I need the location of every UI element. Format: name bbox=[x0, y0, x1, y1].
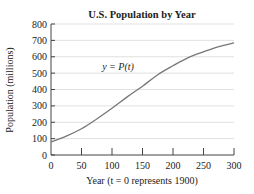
x-tick-label: 200 bbox=[166, 160, 181, 171]
population-chart: U.S. Population by Year 0100200300400500… bbox=[0, 0, 254, 194]
y-tick-label: 500 bbox=[32, 68, 47, 79]
x-tick-label: 250 bbox=[196, 160, 211, 171]
population-curve bbox=[51, 43, 234, 142]
y-tick-label: 700 bbox=[32, 35, 47, 46]
x-axis-label: Year (t = 0 represents 1900) bbox=[86, 175, 198, 187]
x-tick-label: 50 bbox=[77, 160, 87, 171]
y-tick-label: 200 bbox=[32, 117, 47, 128]
y-axis-label: Population (millions) bbox=[4, 47, 16, 132]
y-tick-label: 800 bbox=[32, 19, 47, 30]
x-tick-label: 0 bbox=[49, 160, 54, 171]
gridlines bbox=[51, 24, 234, 139]
y-tick-label: 0 bbox=[42, 150, 47, 161]
x-axis-ticks: 050100150200250300 bbox=[49, 148, 242, 171]
x-tick-label: 100 bbox=[105, 160, 120, 171]
x-tick-label: 150 bbox=[135, 160, 150, 171]
y-tick-label: 600 bbox=[32, 51, 47, 62]
y-tick-label: 100 bbox=[32, 133, 47, 144]
y-tick-label: 300 bbox=[32, 100, 47, 111]
chart-title: U.S. Population by Year bbox=[88, 9, 196, 20]
y-tick-label: 400 bbox=[32, 84, 47, 95]
y-axis-ticks: 0100200300400500600700800 bbox=[32, 19, 55, 161]
x-tick-label: 300 bbox=[227, 160, 242, 171]
curve-annotation: y = P(t) bbox=[101, 61, 134, 73]
